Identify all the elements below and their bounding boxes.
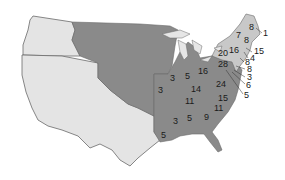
label-pennsylvania: 28 — [218, 59, 228, 69]
label-illinois: 3 — [170, 73, 175, 83]
label-virginia: 24 — [216, 79, 226, 89]
label-mississippi: 3 — [173, 116, 178, 126]
label-south-carolina: 11 — [214, 103, 223, 113]
label-north-carolina: 15 — [218, 93, 228, 103]
label-maryland: 6 — [246, 80, 251, 90]
label-upstate: 16 — [229, 45, 239, 55]
label-georgia: 9 — [204, 112, 209, 122]
label-louisiana: 5 — [161, 130, 166, 140]
label-dc-area: 5 — [244, 90, 249, 100]
label-maine: 8 — [249, 22, 254, 32]
label-tennessee: 11 — [185, 96, 194, 106]
label-new-york: 20 — [218, 48, 228, 58]
label-alabama: 5 — [187, 113, 192, 123]
label-missouri: 3 — [158, 85, 163, 95]
western-territory — [23, 16, 80, 56]
label-maine-extra: 1 — [263, 28, 268, 38]
label-massachusetts: 15 — [254, 46, 264, 56]
label-vermont: 7 — [236, 30, 241, 40]
label-kentucky: 14 — [191, 84, 201, 94]
label-rhode-island: 4 — [250, 53, 255, 63]
label-indiana: 5 — [185, 71, 190, 81]
us-map: 8 1 7 8 15 4 8 20 16 28 8 3 6 5 16 5 3 3… — [0, 0, 285, 180]
label-new-hampshire: 8 — [244, 35, 249, 45]
label-ohio: 16 — [198, 66, 208, 76]
